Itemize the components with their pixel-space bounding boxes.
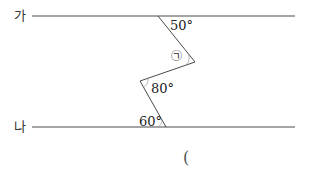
answer-paren: ( <box>183 150 189 166</box>
line-label-na: 나 <box>14 120 26 133</box>
line-label-ga: 가 <box>14 9 26 22</box>
angle-label-50: 50° <box>170 19 193 32</box>
angle-label-80: 80° <box>151 82 174 95</box>
angle-label-60: 60° <box>139 115 162 128</box>
angle-label-unknown: ㉠ <box>171 51 182 62</box>
angle-arc-unknown <box>186 53 189 65</box>
